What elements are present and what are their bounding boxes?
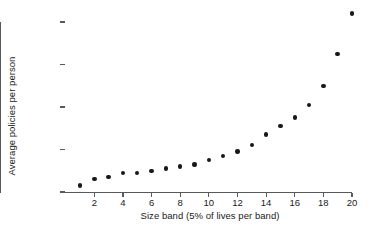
data-point xyxy=(221,154,225,158)
data-point xyxy=(350,11,354,15)
data-point xyxy=(278,124,282,128)
data-point xyxy=(149,169,153,173)
data-point xyxy=(264,132,268,136)
data-point xyxy=(164,166,168,170)
scatter-chart: Average policies per person 1.01.21.41.6… xyxy=(0,0,372,232)
data-point xyxy=(192,162,196,166)
data-point xyxy=(307,103,311,107)
data-point xyxy=(121,171,125,175)
data-point xyxy=(92,177,96,181)
data-point xyxy=(135,171,139,175)
data-point xyxy=(293,115,297,119)
data-point xyxy=(250,143,254,147)
data-point-series xyxy=(0,0,372,232)
data-point xyxy=(178,164,182,168)
data-point xyxy=(321,84,325,88)
data-point xyxy=(335,52,339,56)
x-axis-title: Size band (5% of lives per band) xyxy=(60,210,360,221)
data-point xyxy=(78,183,82,187)
data-point xyxy=(106,175,110,179)
data-point xyxy=(235,149,239,153)
data-point xyxy=(207,158,211,162)
